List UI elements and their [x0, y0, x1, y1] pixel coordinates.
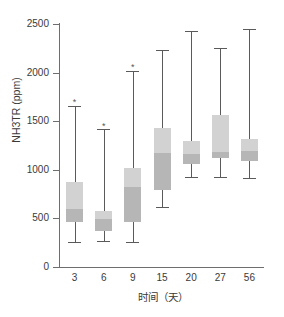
y-axis-tick — [53, 218, 59, 219]
box-lower-quartile — [154, 153, 171, 190]
box-upper-quartile — [124, 168, 141, 187]
box-lower-quartile — [95, 219, 112, 230]
lower-whisker-cap — [126, 242, 139, 243]
upper-whisker-cap — [156, 50, 169, 51]
x-axis-tick-label: 15 — [147, 272, 177, 283]
lower-whisker — [220, 158, 221, 177]
box-lower-quartile — [124, 187, 141, 222]
lower-whisker-cap — [243, 178, 256, 179]
x-axis-tick-label: 9 — [118, 272, 148, 283]
box-upper-quartile — [95, 211, 112, 220]
y-axis-tick — [53, 267, 59, 268]
y-axis-tick-label: 500 — [9, 213, 49, 223]
x-axis-tick-label: 20 — [176, 272, 206, 283]
x-axis-tick-label: 27 — [205, 272, 235, 283]
box-upper-quartile — [212, 115, 229, 152]
lower-whisker — [249, 161, 250, 178]
lower-whisker-cap — [97, 241, 110, 242]
lower-whisker-cap — [156, 207, 169, 208]
lower-whisker — [133, 222, 134, 242]
y-axis-line — [59, 23, 60, 268]
upper-whisker — [104, 129, 105, 210]
upper-whisker-cap — [214, 48, 227, 49]
upper-whisker — [220, 48, 221, 116]
y-axis-title: NH3TR (ppm) — [10, 50, 22, 170]
x-axis-title: 时间（天） — [60, 289, 265, 304]
upper-whisker — [162, 50, 163, 128]
x-axis-tick-label: 56 — [234, 272, 264, 283]
upper-whisker — [191, 31, 192, 141]
lower-whisker — [162, 190, 163, 207]
lower-whisker-cap — [214, 177, 227, 178]
outlier-marker: * — [98, 122, 110, 131]
box-lower-quartile — [183, 154, 200, 164]
lower-whisker-cap — [185, 177, 198, 178]
upper-whisker — [133, 71, 134, 168]
upper-whisker-cap — [185, 31, 198, 32]
upper-whisker-cap — [243, 29, 256, 30]
outlier-marker: * — [69, 98, 81, 107]
y-axis-tick — [53, 121, 59, 122]
y-axis-tick — [53, 73, 59, 74]
box-lower-quartile — [212, 152, 229, 157]
upper-whisker — [75, 106, 76, 182]
x-axis-tick-label: 3 — [60, 272, 90, 283]
box-upper-quartile — [241, 139, 258, 151]
y-axis-tick — [53, 170, 59, 171]
upper-whisker — [249, 29, 250, 139]
y-axis-tick-label: 2500 — [9, 19, 49, 29]
lower-whisker — [191, 164, 192, 177]
lower-whisker — [104, 231, 105, 241]
box-lower-quartile — [66, 209, 83, 223]
y-axis-tick-label: 0 — [9, 262, 49, 272]
outlier-marker: * — [127, 63, 139, 72]
box-plot-chart: 05001000150020002500 36915202756 *** NH3… — [0, 0, 284, 317]
x-axis-tick-label: 6 — [89, 272, 119, 283]
box-upper-quartile — [154, 128, 171, 153]
y-axis-tick — [53, 24, 59, 25]
lower-whisker-cap — [68, 242, 81, 243]
box-upper-quartile — [183, 141, 200, 154]
box-upper-quartile — [66, 182, 83, 208]
box-lower-quartile — [241, 151, 258, 161]
x-axis-line — [59, 267, 264, 268]
lower-whisker — [75, 222, 76, 241]
